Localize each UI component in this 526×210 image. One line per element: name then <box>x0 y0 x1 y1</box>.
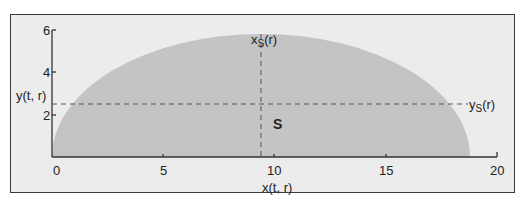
x-tick-0: 0 <box>53 163 60 178</box>
region-s-label: S <box>273 116 282 132</box>
x-tick-10: 10 <box>267 163 281 178</box>
y-tick-2: 2 <box>43 108 50 123</box>
x-axis-label: x(t, r) <box>262 180 292 195</box>
ys-label-tail: (r) <box>482 97 495 112</box>
y-axis-label: y(t, r) <box>16 88 46 103</box>
x-tick-5: 5 <box>160 163 167 178</box>
xs-label: xS(r) <box>251 32 277 49</box>
ys-label: yS(r) <box>469 97 495 114</box>
x-tick-20: 20 <box>490 163 504 178</box>
y-tick-4: 4 <box>43 65 50 80</box>
x-tick-15: 15 <box>379 163 393 178</box>
xs-label-tail: (r) <box>264 32 277 47</box>
y-tick-6: 6 <box>43 23 50 38</box>
